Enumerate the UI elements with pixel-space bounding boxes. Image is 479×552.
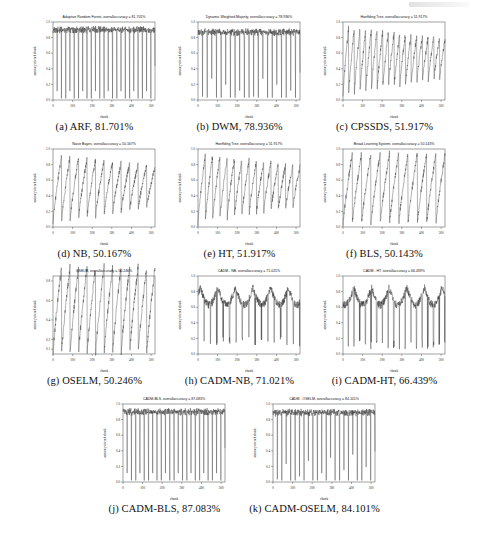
plot-title-d: Naive Bayes, overallaccuracy = 50.167% bbox=[72, 142, 136, 146]
caption-c: (c) CPSSDS, 51.917% bbox=[336, 121, 433, 132]
svg-text:0.0: 0.0 bbox=[336, 98, 340, 102]
svg-text:100: 100 bbox=[215, 358, 220, 362]
subfigure-c: Hoeffding Tree, overallaccuracy = 51.917… bbox=[312, 8, 457, 132]
y-axis-label-d: accuracy of each chunk bbox=[32, 173, 36, 203]
svg-text:500: 500 bbox=[368, 486, 373, 490]
svg-text:0.6: 0.6 bbox=[336, 305, 340, 309]
plot-svg-d: Naive Bayes, overallaccuracy = 50.167% 0… bbox=[29, 135, 161, 247]
caption-d: (d) NB, 50.167% bbox=[58, 248, 132, 259]
svg-text:500: 500 bbox=[218, 486, 223, 490]
svg-text:100: 100 bbox=[70, 231, 75, 235]
x-axis-label-c: chunk bbox=[389, 115, 397, 119]
y-axis-label-b: accuracy of each chunk bbox=[177, 46, 181, 76]
figure-row-3: OSELM, overallaccuracy = 50.246% 0100200… bbox=[0, 262, 479, 386]
svg-text:100: 100 bbox=[140, 486, 145, 490]
subfigure-f: Broad Learning System, overallaccuracy =… bbox=[312, 135, 457, 259]
svg-text:0.4: 0.4 bbox=[266, 449, 270, 453]
svg-text:0.6: 0.6 bbox=[116, 433, 120, 437]
plot-e: Hoeffding Tree, overallaccuracy = 51.917… bbox=[174, 135, 306, 247]
svg-text:100: 100 bbox=[215, 231, 220, 235]
plot-title-k: CADM - OSELM, overallaccuracy = 84.101% bbox=[289, 397, 359, 401]
plot-h: CADM - NB, overallaccuracy = 71.021% 010… bbox=[174, 262, 306, 374]
svg-text:400: 400 bbox=[199, 486, 204, 490]
svg-text:200: 200 bbox=[89, 358, 94, 362]
svg-text:0.8: 0.8 bbox=[191, 163, 195, 167]
svg-text:400: 400 bbox=[129, 104, 134, 108]
svg-text:200: 200 bbox=[89, 104, 94, 108]
plot-title-j: CADM-BLS, overallaccuracy = 87.083% bbox=[142, 397, 204, 401]
svg-text:300: 300 bbox=[109, 358, 114, 362]
svg-text:300: 300 bbox=[399, 104, 404, 108]
svg-text:400: 400 bbox=[349, 486, 354, 490]
svg-text:0.0: 0.0 bbox=[191, 225, 195, 229]
svg-text:1.0: 1.0 bbox=[191, 274, 195, 278]
plot-svg-h: CADM - NB, overallaccuracy = 71.021% 010… bbox=[174, 262, 306, 374]
svg-text:0.2: 0.2 bbox=[191, 83, 195, 87]
svg-text:0.6: 0.6 bbox=[191, 178, 195, 182]
svg-text:300: 300 bbox=[254, 358, 259, 362]
y-axis-label-i: accuracy of each chunk bbox=[322, 300, 326, 330]
figure-grid: Adaptive Random Forest, overallaccuracy … bbox=[0, 8, 479, 514]
subfigure-a: Adaptive Random Forest, overallaccuracy … bbox=[22, 8, 167, 132]
svg-text:100: 100 bbox=[360, 231, 365, 235]
svg-text:1.0: 1.0 bbox=[191, 20, 195, 24]
plot-svg-e: Hoeffding Tree, overallaccuracy = 51.917… bbox=[174, 135, 306, 247]
svg-text:100: 100 bbox=[290, 486, 295, 490]
svg-text:300: 300 bbox=[399, 358, 404, 362]
svg-text:300: 300 bbox=[254, 104, 259, 108]
plot-k: CADM - OSELM, overallaccuracy = 84.101% … bbox=[249, 390, 381, 502]
plot-c: Hoeffding Tree, overallaccuracy = 51.917… bbox=[319, 8, 451, 120]
svg-text:100: 100 bbox=[70, 358, 75, 362]
svg-text:100: 100 bbox=[360, 358, 365, 362]
svg-text:1.0: 1.0 bbox=[336, 274, 340, 278]
svg-text:0.4: 0.4 bbox=[46, 194, 50, 198]
plot-svg-j: CADM-BLS, overallaccuracy = 87.083% 0100… bbox=[99, 390, 231, 502]
caption-b: (b) DWM, 78.936% bbox=[196, 121, 282, 132]
svg-text:1.0: 1.0 bbox=[46, 147, 50, 151]
x-axis-label-h: chunk bbox=[244, 369, 252, 373]
svg-text:1.0: 1.0 bbox=[116, 402, 120, 406]
plot-svg-g: OSELM, overallaccuracy = 50.246% 0100200… bbox=[29, 262, 161, 374]
svg-text:0.0: 0.0 bbox=[266, 480, 270, 484]
svg-text:400: 400 bbox=[129, 358, 134, 362]
svg-text:200: 200 bbox=[159, 486, 164, 490]
subfigure-e: Hoeffding Tree, overallaccuracy = 51.917… bbox=[167, 135, 312, 259]
subfigure-i: CADM - HT, overallaccuracy = 66.439% 010… bbox=[312, 262, 457, 386]
svg-text:0.4: 0.4 bbox=[116, 449, 120, 453]
svg-text:0.4: 0.4 bbox=[336, 321, 340, 325]
svg-text:0.8: 0.8 bbox=[336, 290, 340, 294]
subfigure-g: OSELM, overallaccuracy = 50.246% 0100200… bbox=[22, 262, 167, 386]
svg-text:0.8: 0.8 bbox=[266, 418, 270, 422]
svg-text:0.2: 0.2 bbox=[46, 338, 50, 342]
svg-text:0.4: 0.4 bbox=[336, 194, 340, 198]
plot-title-i: CADM - HT, overallaccuracy = 66.439% bbox=[363, 269, 425, 273]
svg-text:0.2: 0.2 bbox=[46, 83, 50, 87]
svg-text:500: 500 bbox=[148, 231, 153, 235]
svg-text:0.4: 0.4 bbox=[191, 194, 195, 198]
svg-text:0.6: 0.6 bbox=[191, 51, 195, 55]
svg-text:300: 300 bbox=[399, 231, 404, 235]
x-axis-label-i: chunk bbox=[389, 369, 397, 373]
svg-text:0.6: 0.6 bbox=[336, 51, 340, 55]
plot-b: Dynamic Weighted Majority, overallaccura… bbox=[174, 8, 306, 120]
figure-row-4: CADM-BLS, overallaccuracy = 87.083% 0100… bbox=[0, 390, 479, 514]
svg-text:200: 200 bbox=[379, 358, 384, 362]
y-axis-label-a: accuracy of each chunk bbox=[32, 46, 36, 76]
caption-e: (e) HT, 51.917% bbox=[204, 248, 276, 259]
y-axis-label-j: accuracy of each chunk bbox=[102, 428, 106, 458]
svg-text:0.0: 0.0 bbox=[336, 352, 340, 356]
x-axis-label-j: chunk bbox=[169, 497, 177, 501]
svg-text:0.2: 0.2 bbox=[191, 337, 195, 341]
y-axis-label-k: accuracy of each chunk bbox=[252, 428, 256, 458]
plot-a: Adaptive Random Forest, overallaccuracy … bbox=[29, 8, 161, 120]
subfigure-k: CADM - OSELM, overallaccuracy = 84.101% … bbox=[240, 390, 390, 514]
svg-text:0.8: 0.8 bbox=[116, 418, 120, 422]
y-axis-label-e: accuracy of each chunk bbox=[177, 173, 181, 203]
svg-text:500: 500 bbox=[438, 231, 443, 235]
plot-title-a: Adaptive Random Forest, overallaccuracy … bbox=[62, 15, 145, 19]
plot-title-e: Hoeffding Tree, overallaccuracy = 51.917… bbox=[215, 142, 282, 146]
x-axis-label-k: chunk bbox=[319, 497, 327, 501]
plot-title-f: Broad Learning System, overallaccuracy =… bbox=[353, 142, 434, 146]
plot-g: OSELM, overallaccuracy = 50.246% 0100200… bbox=[29, 262, 161, 374]
plot-d: Naive Bayes, overallaccuracy = 50.167% 0… bbox=[29, 135, 161, 247]
